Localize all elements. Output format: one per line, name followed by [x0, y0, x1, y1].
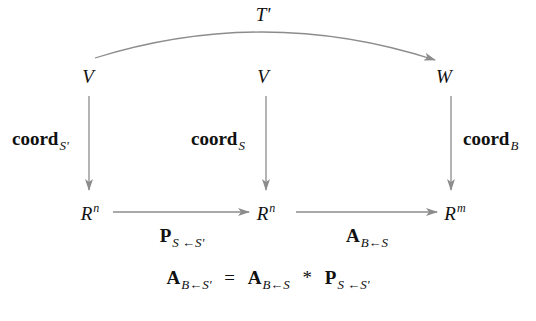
- eq-lhs-name: A: [166, 267, 180, 288]
- node-exponent: n: [93, 201, 99, 215]
- node-v-left: V: [82, 67, 94, 86]
- label-coord-s: coordS: [191, 129, 245, 148]
- eq-term2-name: P: [325, 267, 337, 288]
- node-r-n-left: Rn: [81, 204, 100, 223]
- label-coord-name: coord: [191, 128, 237, 149]
- label-matrix-name: P: [160, 225, 172, 246]
- eq-lhs-sub: B←S': [181, 277, 211, 292]
- label-matrix-name: A: [346, 225, 360, 246]
- label-a-b-from-s: AB←S: [346, 226, 388, 245]
- node-base: R: [257, 203, 269, 224]
- eq-term1-sub: B←S: [262, 277, 289, 292]
- node-w: W: [436, 67, 452, 86]
- node-base: R: [81, 203, 93, 224]
- node-exponent: m: [457, 201, 466, 215]
- label-coord-s-prime: coordS': [12, 129, 69, 148]
- label-p-s-from-s-prime: PS ←S': [160, 226, 205, 245]
- label-coord-sub: S: [238, 138, 245, 153]
- composition-equation: AB←S' = AB←S * PS ←S': [166, 267, 369, 289]
- label-coord-name: coord: [463, 128, 509, 149]
- node-v-middle: V: [257, 67, 269, 86]
- eq-term2-sub: S ←S': [337, 277, 369, 292]
- label-coord-sub: S': [59, 138, 68, 153]
- map-label-t-prime: T': [256, 5, 271, 24]
- node-exponent: n: [269, 201, 275, 215]
- label-coord-name: coord: [12, 128, 58, 149]
- eq-term1-name: A: [248, 267, 262, 288]
- node-r-n-middle: Rn: [257, 204, 276, 223]
- label-matrix-sub: B←S: [361, 235, 388, 250]
- label-coord-sub: B: [510, 138, 518, 153]
- eq-equals: =: [224, 267, 235, 288]
- arrow-t-prime: [95, 32, 435, 60]
- eq-times: *: [303, 267, 313, 288]
- node-r-m: Rm: [444, 204, 465, 223]
- label-coord-b: coordB: [463, 129, 518, 148]
- node-base: R: [444, 203, 456, 224]
- label-matrix-sub: S ←S': [172, 235, 204, 250]
